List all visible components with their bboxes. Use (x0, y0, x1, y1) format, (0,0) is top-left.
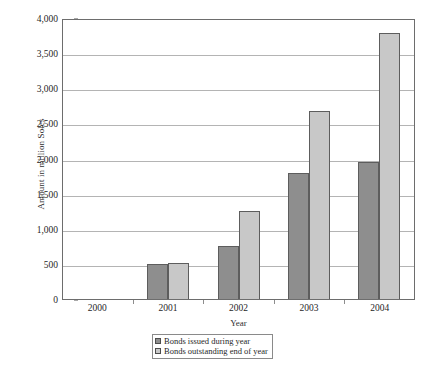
legend-item: Bonds issued during year (155, 336, 268, 346)
legend-item: Bonds outstanding end of year (155, 346, 268, 356)
y-axis-tick-labels: 05001,0001,5002,0002,5003,0003,5004,000 (16, 0, 58, 375)
x-tick-mark (274, 300, 275, 304)
legend-swatch-icon (155, 348, 161, 354)
bar-group (203, 20, 273, 299)
bar-group (133, 20, 203, 299)
x-axis-tick-labels: 20002001200220032004 (62, 303, 415, 313)
figure-caption (8, 366, 308, 375)
bar (239, 211, 260, 299)
bar-group (63, 20, 133, 299)
bar (309, 111, 330, 299)
bar (168, 263, 189, 299)
plot-area (62, 19, 415, 300)
x-tick-label: 2000 (62, 303, 133, 313)
bar-group (344, 20, 414, 299)
bar (358, 162, 379, 299)
chart-legend: Bonds issued during yearBonds outstandin… (152, 334, 273, 359)
bar (218, 246, 239, 299)
x-tick-mark (344, 300, 345, 304)
x-tick-label: 2004 (344, 303, 415, 313)
y-tick-label: 4,000 (18, 14, 58, 24)
x-tick-mark (203, 300, 204, 304)
legend-label: Bonds issued during year (164, 336, 250, 346)
y-tick-label: 1,000 (18, 225, 58, 235)
bar (147, 264, 168, 299)
x-tick-mark (133, 300, 134, 304)
x-tick-label: 2001 (133, 303, 204, 313)
y-tick-label: 3,000 (18, 84, 58, 94)
bar (379, 33, 400, 299)
y-tick-label: 1,500 (18, 190, 58, 200)
legend-label: Bonds outstanding end of year (164, 346, 268, 356)
y-tick-label: 2,000 (18, 155, 58, 165)
bar-group (274, 20, 344, 299)
bar-series-container (63, 20, 414, 299)
x-tick-label: 2003 (274, 303, 345, 313)
chart-figure: Amount in million Soles 05001,0001,5002,… (0, 0, 430, 375)
y-tick-label: 500 (18, 260, 58, 270)
y-tick-label: 2,500 (18, 119, 58, 129)
legend-swatch-icon (155, 338, 161, 344)
y-tick-label: 0 (18, 295, 58, 305)
bar (288, 173, 309, 299)
x-axis-title: Year (62, 318, 415, 328)
x-tick-label: 2002 (203, 303, 274, 313)
y-tick-label: 3,500 (18, 49, 58, 59)
